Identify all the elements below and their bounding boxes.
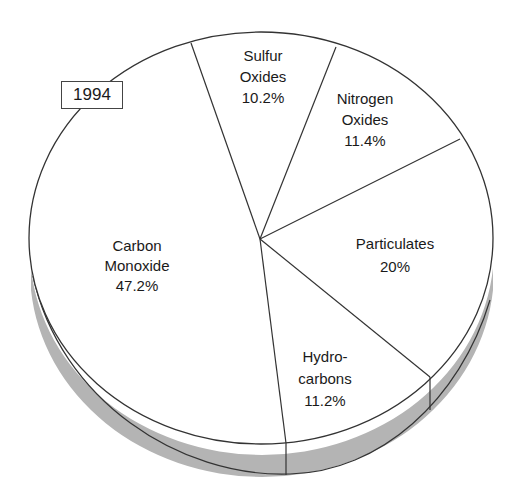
svg-text:10.2%: 10.2% xyxy=(242,89,285,106)
svg-text:20%: 20% xyxy=(380,258,410,275)
svg-text:Sulfur: Sulfur xyxy=(243,47,282,64)
pie-chart: Carbon Monoxide 47.2% Sulfur Oxides 10.2… xyxy=(0,0,529,498)
svg-text:Nitrogen: Nitrogen xyxy=(337,90,394,107)
svg-text:carbons: carbons xyxy=(298,370,351,387)
svg-text:Carbon: Carbon xyxy=(112,237,161,254)
svg-text:11.4%: 11.4% xyxy=(344,132,385,149)
svg-text:Particulates: Particulates xyxy=(356,235,434,252)
svg-text:Oxides: Oxides xyxy=(240,68,287,85)
svg-text:Oxides: Oxides xyxy=(342,111,389,128)
svg-text:Monoxide: Monoxide xyxy=(104,257,169,274)
slice-label-hydrocarbons: Hydro- carbons 11.2% xyxy=(298,348,351,409)
year-label: 1994 xyxy=(73,85,111,105)
slice-label-nitrogen-oxides: Nitrogen Oxides 11.4% xyxy=(337,90,394,149)
year-label-box: 1994 xyxy=(61,81,123,109)
svg-text:47.2%: 47.2% xyxy=(116,277,159,294)
svg-text:Hydro-: Hydro- xyxy=(302,348,347,365)
slice-label-sulfur-oxides: Sulfur Oxides 10.2% xyxy=(240,47,287,106)
svg-text:11.2%: 11.2% xyxy=(304,392,345,409)
